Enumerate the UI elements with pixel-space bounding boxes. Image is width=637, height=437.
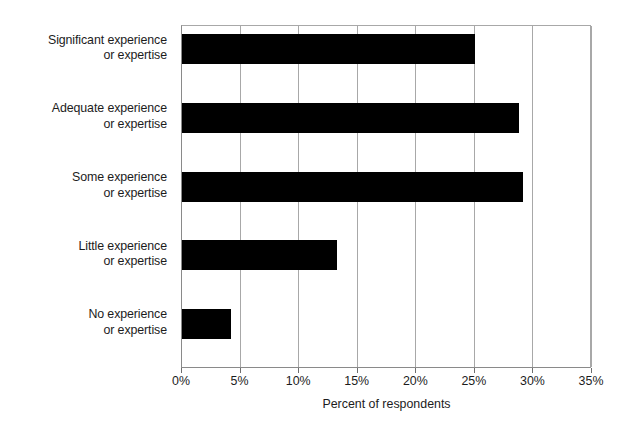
category-label-line2: or expertise — [0, 186, 167, 202]
category-label-line1: Little experience — [0, 239, 167, 255]
bar — [182, 309, 231, 339]
category-label-line2: or expertise — [0, 48, 167, 64]
x-tick-label: 25% — [451, 374, 497, 389]
x-tick-label: 30% — [509, 374, 555, 389]
category-label-line2: or expertise — [0, 254, 167, 270]
category-label: No experience or expertise — [0, 307, 167, 338]
x-tick-label: 20% — [392, 374, 438, 389]
bar-chart: Significant experience or expertise Adeq… — [0, 0, 637, 437]
x-tick-label: 15% — [334, 374, 380, 389]
x-tick-label: 0% — [158, 374, 204, 389]
category-label: Adequate experience or expertise — [0, 101, 167, 132]
category-label: Significant experience or expertise — [0, 33, 167, 64]
category-label-line1: Some experience — [0, 170, 167, 186]
category-label-line1: Adequate experience — [0, 101, 167, 117]
x-tick-mark — [298, 368, 299, 373]
category-label-line1: No experience — [0, 307, 167, 323]
bar — [182, 172, 523, 202]
x-tick-label: 5% — [217, 374, 263, 389]
gridline — [532, 26, 533, 367]
gridline — [591, 26, 592, 367]
bar — [182, 34, 475, 64]
x-tick-mark — [181, 368, 182, 373]
x-tick-mark — [240, 368, 241, 373]
x-tick-label: 10% — [275, 374, 321, 389]
x-tick-label: 35% — [568, 374, 614, 389]
x-tick-mark — [415, 368, 416, 373]
x-tick-mark — [357, 368, 358, 373]
x-tick-mark — [532, 368, 533, 373]
x-axis-title: Percent of respondents — [181, 396, 592, 412]
category-axis-labels: Significant experience or expertise Adeq… — [0, 25, 174, 368]
plot-area — [181, 25, 591, 368]
bar — [182, 240, 337, 270]
category-label-line1: Significant experience — [0, 33, 167, 49]
category-label-line2: or expertise — [0, 117, 167, 133]
x-tick-mark — [474, 368, 475, 373]
x-axis-ticks: 0%5%10%15%20%25%30%35% — [181, 368, 592, 394]
x-tick-mark — [591, 368, 592, 373]
category-label: Little experience or expertise — [0, 239, 167, 270]
bar — [182, 103, 519, 133]
category-label-line2: or expertise — [0, 323, 167, 339]
category-label: Some experience or expertise — [0, 170, 167, 201]
